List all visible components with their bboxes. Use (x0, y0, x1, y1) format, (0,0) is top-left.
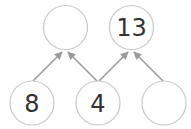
node-bottom-right (142, 81, 186, 125)
node-bottom-left-value: 8 (24, 90, 39, 118)
node-bottom-left: 8 (10, 81, 54, 125)
node-bottom-middle-value: 4 (90, 90, 105, 118)
node-top-right: 13 (110, 6, 154, 50)
arrow-bottom-left-to-top-left (33, 52, 62, 81)
node-top-left (44, 6, 88, 50)
arrow-bottom-right-to-top-right (134, 52, 163, 81)
arrow-bottom-middle-to-top-right (99, 52, 128, 81)
number-pyramid-diagram: 13 8 4 (0, 0, 191, 129)
arrow-bottom-middle-to-top-left (68, 52, 97, 81)
node-bottom-middle: 4 (76, 81, 120, 125)
node-top-right-value: 13 (116, 14, 147, 42)
